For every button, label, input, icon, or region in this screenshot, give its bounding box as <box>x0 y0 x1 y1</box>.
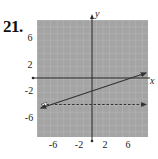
x-tick-labels: -6 -2 2 6 <box>49 139 131 150</box>
y-tick-neg6: -6 <box>25 112 33 123</box>
x-axis-label: x <box>149 75 155 86</box>
coordinate-plot: x y 6 2 -2 -6 -6 -2 2 6 <box>0 0 158 159</box>
y-tick-6: 6 <box>28 32 33 43</box>
x-tick-neg2: -2 <box>75 139 83 150</box>
y-axis-label: y <box>94 8 100 19</box>
y-tick-neg2: -2 <box>25 85 33 96</box>
y-tick-2: 2 <box>28 59 33 70</box>
x-tick-neg6: -6 <box>49 139 57 150</box>
x-tick-6: 6 <box>126 139 131 150</box>
x-tick-2: 2 <box>103 139 108 150</box>
